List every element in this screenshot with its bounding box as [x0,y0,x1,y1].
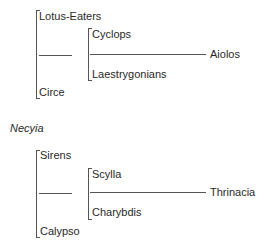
inner-bracket [88,168,89,219]
target-label: Aiolos [210,48,240,61]
outer-top-label: Lotus-Eaters [39,10,101,23]
inner-bracket [88,28,89,80]
inner-bottom-label: Charybdis [92,206,142,219]
outer-bracket [36,10,37,98]
target-label: Thrinacia [210,186,255,199]
inner-top-label: Cyclops [92,28,131,41]
divider-label: Necyia [10,122,44,135]
connector-line [90,192,206,193]
outer-bracket [36,150,37,237]
connector-line [90,54,206,55]
outer-top-label: Sirens [40,149,71,162]
connector-line [39,193,72,194]
bracket-tick [88,219,92,220]
inner-top-label: Scylla [92,168,121,181]
connector-line [39,55,72,56]
outer-bottom-label: Circe [39,86,65,99]
outer-bottom-label: Calypso [40,225,80,238]
inner-bottom-label: Laestrygonians [92,68,167,81]
